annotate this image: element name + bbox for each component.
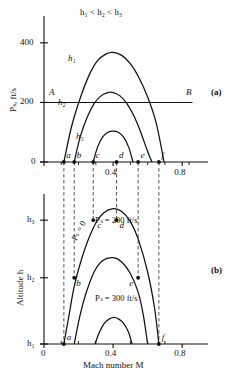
panel-a-point-d: d (119, 151, 124, 160)
panel-a-line-endpoint-B: B (186, 88, 192, 97)
panel-b-point-f: f (162, 333, 165, 342)
panel-a-curve-h₁ (64, 52, 164, 162)
figure-vector-layer (0, 0, 242, 378)
panel-b-label: (b) (211, 266, 222, 275)
panel-a-ytick-400: 400 (20, 38, 34, 47)
panel-b-ytick-h1: h₁ (27, 339, 35, 348)
panel-b-y-axis-title: Altitude h (16, 270, 25, 306)
panel-b-xtick-0p4: 0.4 (105, 349, 116, 358)
panel-a-marker-f (157, 160, 161, 164)
panel-a-curve-label-h1: h₁ (68, 54, 76, 63)
panel-a-marker-a (62, 160, 66, 164)
panel-b-curve-Ps = 300 ft/s (95, 317, 132, 344)
panel-a-ytick-200: 200 (20, 97, 34, 106)
panel-a-point-a: a (66, 151, 71, 160)
panel-a-curve-label-h3: h₃ (76, 132, 84, 141)
panel-b-point-a: a (67, 333, 72, 342)
panel-a-point-c: c (96, 151, 100, 160)
panel-b-point-e: e (129, 279, 133, 288)
panel-b-point-d: d (120, 221, 125, 230)
figure-specific-excess-power: h₁ < h₂ < h₃ (a) (b) Pₛ, ft/s 0 200 400 … (0, 0, 242, 378)
panel-a-label: (a) (211, 88, 222, 97)
panel-b-x-axis-title: Mach number M (83, 361, 144, 370)
panel-a-xtick-0p4: 0.4 (105, 168, 116, 177)
panel-a-point-b: b (77, 151, 82, 160)
panel-a-xtick-0p8: 0.8 (174, 168, 185, 177)
panel-a-marker-d (115, 160, 119, 164)
panel-b-curve-label-ps-300: Pₛ = 300 ft/s (95, 294, 138, 303)
panel-a-line-endpoint-A: A (49, 88, 55, 97)
panel-b-marker-a (62, 342, 66, 346)
panel-a-marker-b (72, 160, 76, 164)
panel-a-point-e: e (141, 151, 145, 160)
panel-b-xtick-0p8: 0.8 (174, 349, 185, 358)
panel-a-marker-c (91, 160, 95, 164)
panel-b-marker-e (136, 276, 140, 280)
panel-b-ytick-h3: h₃ (27, 215, 35, 224)
panel-a-marker-e (136, 160, 140, 164)
panel-a-y-axis-title: Pₛ, ft/s (9, 88, 18, 112)
panel-a-point-f: f (161, 151, 164, 160)
panel-a-curve-label-h2: h₂ (58, 98, 66, 107)
panel-b-xtick-0: 0 (41, 349, 46, 358)
panel-b-ytick-h2: h₂ (27, 273, 35, 282)
panel-a-title: h₁ < h₂ < h₃ (80, 8, 122, 17)
panel-b-point-b: b (76, 279, 81, 288)
panel-b-curve-label-ps-200: Pₛ = 200 ft/s (95, 216, 138, 225)
panel-b-point-c: c (97, 221, 101, 230)
panel-b-marker-f (157, 342, 161, 346)
panel-a-ytick-0: 0 (31, 157, 36, 166)
